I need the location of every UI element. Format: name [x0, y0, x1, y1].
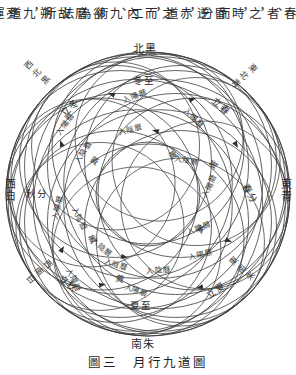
nine-paths-diagram: 北黑 南朱 東青 西白 西北黑 東北青 西南白 東南朱 冬至 夏至 立冬 立春 … — [0, 36, 296, 352]
cardinal-west: 西白 — [3, 178, 15, 202]
term-autumn-equinox: 秋分 — [26, 186, 47, 200]
body-text-column: 者 ， — [261, 0, 278, 40]
cardinal-south: 南朱 — [131, 335, 155, 351]
body-text-column: 昏 分 — [209, 0, 226, 40]
body-text-column: 曆 法 — [70, 0, 87, 40]
body-text-column: 赤 道 — [174, 0, 191, 40]
term-summer-solstice: 夏至 — [130, 298, 151, 312]
body-text-column: 時 而 — [226, 0, 243, 40]
body-text-column: 亮 運 — [0, 0, 17, 40]
body-text-column: 逆 ， — [192, 0, 209, 40]
body-text-column: 內 、 — [122, 0, 139, 40]
body-text-column: 春 、 — [279, 0, 296, 40]
cardinal-north: 北黑 — [133, 40, 157, 56]
body-text-column: 之 ， — [244, 0, 261, 40]
direction-arrow — [58, 139, 65, 147]
figure-caption: 圖三 月行九道圖 — [0, 352, 296, 371]
body-text-column: 故 所 — [52, 0, 69, 40]
body-text-column: 九 道 — [17, 0, 34, 40]
body-text-column: 而 二 — [139, 0, 156, 40]
body-text-column: 朔 ， — [35, 0, 52, 40]
body-text-column: 之 ， — [157, 0, 174, 40]
body-text-block: 春 、者 ，之 ，時 而昏 分逆 ，赤 道之 ，而 二內 、九 術卻 為曆 法故… — [0, 0, 296, 40]
cardinal-east: 東青 — [279, 178, 291, 202]
body-text-column: 卻 為 — [87, 0, 104, 40]
body-text-column: 九 術 — [104, 0, 121, 40]
